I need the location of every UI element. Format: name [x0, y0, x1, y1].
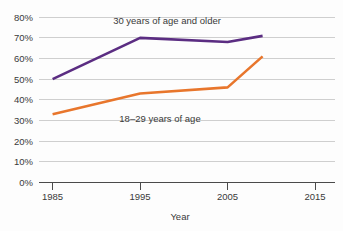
x-tick-label-2015: 2015 [305, 191, 326, 202]
y-tick-label-30: 30% [14, 115, 34, 126]
x-tick-label-1985: 1985 [42, 191, 63, 202]
y-tick-label-20: 20% [14, 136, 34, 147]
series-label-30-and-older: 30 years of age and older [113, 15, 221, 26]
y-tick-label-40: 40% [14, 94, 34, 105]
x-tick-label-2005: 2005 [217, 191, 238, 202]
x-axis-title: Year [170, 211, 189, 222]
x-tick-label-1995: 1995 [130, 191, 151, 202]
y-tick-label-0: 0% [19, 177, 33, 188]
y-tick-label-80: 80% [14, 12, 34, 23]
x-axis-tick-marks [53, 182, 316, 189]
y-tick-label-10: 10% [14, 156, 34, 167]
y-tick-label-70: 70% [14, 32, 34, 43]
series-label-18-to-29: 18–29 years of age [119, 113, 200, 124]
x-axis-tick-labels: 1985 1995 2005 2015 [42, 191, 326, 202]
line-chart-figure: 80% 70% 60% 50% 40% 30% 20% 10% 0% 1985 … [0, 0, 343, 231]
y-axis-tick-labels: 80% 70% 60% 50% 40% 30% 20% 10% 0% [14, 12, 34, 188]
line-series-30-and-older [53, 36, 263, 79]
chart-plot-area: 80% 70% 60% 50% 40% 30% 20% 10% 0% 1985 … [0, 0, 343, 231]
y-tick-label-50: 50% [14, 74, 34, 85]
y-tick-label-60: 60% [14, 53, 34, 64]
